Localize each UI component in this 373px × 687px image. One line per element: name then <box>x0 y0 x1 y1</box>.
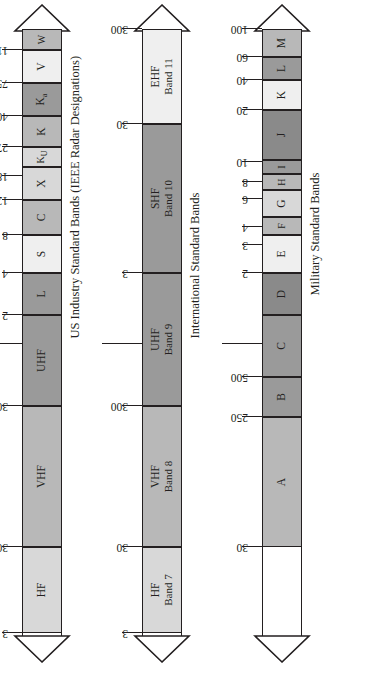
military-tick-label-2: 500 <box>231 372 248 384</box>
us-industry-segment-label-uhf: UHF <box>36 349 48 372</box>
military-segment-label-band-b: B <box>276 393 288 401</box>
military-segment-label-band-k: K <box>276 91 288 99</box>
us-industry-segment-label-ka: Ka <box>35 94 49 106</box>
military-segment-label-band-d: D <box>276 290 288 298</box>
military-segment-band-a[interactable]: A <box>262 417 302 547</box>
us-industry-segment-label-k: K <box>36 127 48 135</box>
military-segment-band-d[interactable]: D <box>262 273 302 315</box>
international-segment-vhf-band8[interactable]: VHFBand 8 <box>142 406 182 547</box>
military-segment-band-k[interactable]: K <box>262 80 302 110</box>
us-industry-segment-ku[interactable]: KU <box>22 147 62 167</box>
us-industry-segment-label-c: C <box>36 214 48 222</box>
military-segment-label-band-a: A <box>276 478 288 486</box>
military-tick-label-4: 2 <box>242 268 248 280</box>
us-industry-segment-l[interactable]: L <box>22 273 62 315</box>
us-industry-tick-label-4: 2 <box>2 310 8 322</box>
military-tick-label-13: 100 <box>231 24 248 36</box>
international-segment-hf-band7[interactable]: HFBand 7 <box>142 547 182 633</box>
us-industry-tick-label-2: 300 <box>0 401 8 413</box>
us-industry-tick-3 <box>0 343 22 344</box>
us-industry-segment-hf[interactable]: HF <box>22 547 62 633</box>
us-industry-tick-label-10: 40 <box>0 111 8 123</box>
military-segment-label-band-c: C <box>276 342 288 350</box>
international-tick-3 <box>102 343 142 344</box>
military-tick-label-1: 250 <box>231 412 248 424</box>
us-industry-segment-label-s: S <box>36 251 48 257</box>
military-segment-label-band-f: F <box>277 223 287 229</box>
military-segment-label-band-l: L <box>276 65 288 72</box>
international-segment-label-uhf-band9: UHFBand 9 <box>150 324 174 355</box>
us-industry-segment-k[interactable]: K <box>22 116 62 147</box>
us-industry-tick-label-12: 110 <box>0 45 8 57</box>
us-industry-segment-c[interactable]: C <box>22 200 62 235</box>
us-industry-segment-w[interactable]: W <box>22 29 62 50</box>
military-segment-label-band-m: M <box>276 38 288 48</box>
military-left-arrowhead <box>253 633 311 663</box>
frequency-band-figure: HFVHFUHFLSCXKUKKaVW330300248121827407511… <box>0 0 373 687</box>
military-tick-label-5: 3 <box>242 240 248 252</box>
military-segment-band-g[interactable]: G <box>262 190 302 217</box>
international-segment-label-hf-band7: HFBand 7 <box>150 574 174 605</box>
military-segment-band-e[interactable]: E <box>262 235 302 273</box>
us-industry-segment-ka[interactable]: Ka <box>22 83 62 116</box>
military-tick-label-11: 40 <box>237 75 249 87</box>
military-segment-label-band-i: I <box>277 165 287 168</box>
military-segment-band-f[interactable]: F <box>262 217 302 235</box>
us-industry-segment-label-w: W <box>37 35 47 44</box>
international-segment-label-vhf-band8: VHFBand 8 <box>150 461 174 492</box>
military-segment-band-b[interactable]: B <box>262 377 302 417</box>
military-segment-band-i[interactable]: I <box>262 160 302 174</box>
us-industry-left-arrowhead <box>13 633 71 663</box>
military-segment-band-j[interactable]: J <box>262 110 302 160</box>
us-industry-segment-label-ku: KU <box>36 151 49 164</box>
international-tick-label-5: 30 <box>117 119 129 131</box>
military-tick-label-9: 10 <box>237 157 249 169</box>
international-segment-label-ehf-band11: EHFBand 11 <box>150 58 174 95</box>
us-industry-segment-label-v: V <box>36 62 48 70</box>
us-industry-segment-vhf[interactable]: VHF <box>22 406 62 547</box>
international-tick-label-2: 300 <box>111 401 128 413</box>
us-industry-segment-label-l: L <box>36 290 48 297</box>
us-industry-segment-x[interactable]: X <box>22 167 62 200</box>
military-segment-label-band-e: E <box>276 250 288 257</box>
international-segment-label-shf-band10: SHFBand 10 <box>150 180 174 217</box>
us-industry-tick-label-9: 27 <box>0 142 8 154</box>
military-segment-band-h[interactable]: H <box>262 174 302 190</box>
us-industry-tick-label-8: 18 <box>0 171 8 183</box>
us-industry-tick-label-11: 75 <box>0 78 8 90</box>
us-industry-tick-label-5: 4 <box>2 268 8 280</box>
us-industry-segment-v[interactable]: V <box>22 50 62 83</box>
military-segment-label-band-j: J <box>276 133 288 137</box>
military-tick-label-12: 60 <box>237 52 249 64</box>
us-industry-segment-s[interactable]: S <box>22 235 62 273</box>
us-industry-segment-label-vhf: VHF <box>36 465 48 488</box>
military-segment-label-band-g: G <box>276 199 288 207</box>
military-segment-label-band-h: H <box>277 178 287 185</box>
military-segment-band-l[interactable]: L <box>262 57 302 80</box>
military-tick-label-7: 6 <box>242 194 248 206</box>
international-tick-label-1: 30 <box>117 542 129 554</box>
military-tick-label-8: 8 <box>242 177 248 189</box>
military-tick-3 <box>222 343 262 344</box>
international-tick-label-4: 3 <box>122 268 128 280</box>
military-segment-band-m[interactable]: M <box>262 29 302 57</box>
international-tick-label-0: 3 <box>122 628 128 640</box>
military-tick-label-6: 4 <box>242 222 248 234</box>
us-industry-segment-label-x: X <box>36 179 48 187</box>
international-segment-uhf-band9[interactable]: UHFBand 9 <box>142 273 182 406</box>
military-segment-band-c[interactable]: C <box>262 315 302 377</box>
us-industry-tick-label-7: 12 <box>0 195 8 207</box>
military-tick-label-0: 30 <box>237 542 249 554</box>
international-tick-label-6: 300 <box>111 24 128 36</box>
us-industry-segment-uhf[interactable]: UHF <box>22 315 62 406</box>
international-left-arrowhead <box>133 633 191 663</box>
us-industry-tick-label-0: 3 <box>2 628 8 640</box>
military-tick-label-10: 20 <box>237 105 249 117</box>
international-segment-shf-band10[interactable]: SHFBand 10 <box>142 124 182 273</box>
us-industry-right-arrowhead <box>13 2 71 32</box>
us-industry-tick-label-6: 8 <box>2 230 8 242</box>
us-industry-tick-label-1: 30 <box>0 542 8 554</box>
us-industry-segment-label-hf: HF <box>36 583 48 598</box>
international-segment-ehf-band11[interactable]: EHFBand 11 <box>142 29 182 124</box>
